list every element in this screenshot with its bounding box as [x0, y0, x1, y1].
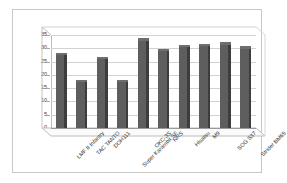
bar-top-face	[97, 57, 108, 60]
bar-side-face	[167, 51, 170, 128]
bar[interactable]	[199, 46, 210, 128]
y-tick-label: 20	[31, 72, 47, 78]
bar-slot	[72, 35, 93, 128]
y-tick-label: 25	[31, 59, 47, 65]
bar[interactable]	[158, 51, 169, 128]
bar-side-face	[85, 82, 88, 129]
bar-side-face	[126, 82, 129, 129]
y-tick-label: 15	[31, 85, 47, 91]
x-axis-label: Strider BM65	[259, 130, 275, 157]
y-tick-label: 5	[31, 112, 47, 118]
bar-slot	[195, 35, 216, 128]
bar-slot	[113, 35, 134, 128]
bar-slot	[236, 35, 257, 128]
bar-side-face	[64, 55, 67, 128]
bar-slot	[92, 35, 113, 128]
gridline-0	[51, 128, 256, 129]
x-axis-label: SOG S37	[236, 130, 257, 151]
bar-top-face	[179, 45, 190, 48]
y-tick-mark	[47, 48, 50, 49]
bar-top-face	[56, 53, 67, 56]
plot-area	[51, 35, 256, 128]
bar-side-face	[105, 59, 108, 128]
bar-side-face	[249, 48, 252, 128]
bar[interactable]	[179, 47, 190, 128]
y-tick-mark	[47, 88, 50, 89]
y-tick-mark	[47, 101, 50, 102]
bar-side-face	[146, 40, 149, 128]
y-tick-label: 0	[31, 125, 47, 131]
bar-slot	[133, 35, 154, 128]
y-tick-mark	[47, 128, 50, 129]
bar[interactable]	[56, 55, 67, 128]
bar[interactable]	[138, 40, 149, 128]
bar-top-face	[117, 80, 128, 83]
bar-top-face	[220, 42, 231, 45]
y-tick-mark	[47, 75, 50, 76]
bar-top-face	[240, 46, 251, 49]
bar[interactable]	[97, 59, 108, 128]
bar[interactable]	[117, 82, 128, 129]
bar-top-face	[76, 80, 87, 83]
bar-top-face	[158, 49, 169, 52]
y-axis-ticks: 35302520151050	[31, 35, 47, 128]
x-axis-label: Hisatsu	[194, 130, 211, 147]
bar-side-face	[187, 47, 190, 128]
bar-side-face	[228, 44, 231, 128]
bar-side-face	[208, 46, 211, 128]
x-axis-label: M9	[211, 130, 221, 140]
y-tick-mark	[47, 62, 50, 63]
bar-top-face	[199, 44, 210, 47]
bar[interactable]	[220, 44, 231, 128]
bar[interactable]	[76, 82, 87, 129]
bar[interactable]	[240, 48, 251, 128]
y-tick-label: 10	[31, 98, 47, 104]
y-tick-mark	[47, 115, 50, 116]
bar-top-face	[138, 38, 149, 41]
y-tick-label: 30	[31, 45, 47, 51]
y-tick-mark	[47, 35, 50, 36]
chart-frame: 35302520151050 LMF II InfantryTAC TANTOD…	[12, 9, 262, 173]
y-tick-label: 35	[31, 32, 47, 38]
x-axis-labels: LMF II InfantryTAC TANTODOH111Super Kara…	[51, 130, 271, 180]
bar-slot	[154, 35, 175, 128]
bar-slot	[215, 35, 236, 128]
bar-slot	[174, 35, 195, 128]
bar-slot	[51, 35, 72, 128]
